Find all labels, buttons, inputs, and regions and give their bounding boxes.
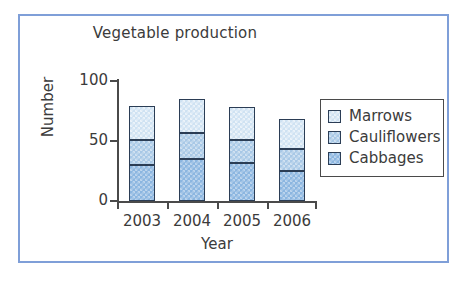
x-tick-mark-3 bbox=[267, 202, 269, 209]
bar-2004-segment-cabbages[interactable] bbox=[179, 159, 205, 201]
legend-item-cauliflowers[interactable]: Cauliflowers bbox=[328, 127, 436, 148]
legend-label-cabbages: Cabbages bbox=[349, 151, 423, 166]
bar-2006-segment-cauliflowers[interactable] bbox=[279, 149, 305, 171]
bar-2005-segment-cabbages[interactable] bbox=[229, 163, 255, 201]
chart-title: Vegetable production bbox=[20, 24, 330, 42]
x-tick-mark-0 bbox=[117, 202, 119, 209]
bar-2003-segment-cabbages[interactable] bbox=[129, 165, 155, 201]
x-axis-title: Year bbox=[117, 235, 317, 253]
legend-swatch-marrows bbox=[328, 110, 341, 123]
y-tick-label-0: 0 bbox=[60, 193, 108, 208]
x-tick-label-2003: 2003 bbox=[117, 212, 167, 230]
chart-frame: Vegetable production 100 50 0 Number 200… bbox=[18, 14, 449, 263]
chart-legend[interactable]: Marrows Cauliflowers Cabbages bbox=[320, 99, 444, 177]
y-tick-label-50: 50 bbox=[60, 133, 108, 148]
bar-2005-segment-marrows[interactable] bbox=[229, 107, 255, 139]
x-tick-mark-2 bbox=[217, 202, 219, 209]
legend-label-cauliflowers: Cauliflowers bbox=[349, 130, 441, 145]
y-tick-label-100: 100 bbox=[60, 73, 108, 88]
legend-item-cabbages[interactable]: Cabbages bbox=[328, 148, 436, 169]
y-tick-mark-50 bbox=[110, 140, 118, 142]
legend-swatch-cauliflowers bbox=[328, 131, 341, 144]
bar-2005-segment-cauliflowers[interactable] bbox=[229, 140, 255, 163]
bar-2004-segment-marrows[interactable] bbox=[179, 99, 205, 133]
chart-plot-container: Vegetable production 100 50 0 Number 200… bbox=[20, 16, 451, 265]
x-tick-mark-1 bbox=[167, 202, 169, 209]
x-tick-label-2006: 2006 bbox=[267, 212, 317, 230]
y-tick-mark-100 bbox=[110, 80, 118, 82]
bar-2006-segment-cabbages[interactable] bbox=[279, 171, 305, 201]
x-tick-mark-4 bbox=[315, 202, 317, 209]
legend-swatch-cabbages bbox=[328, 152, 341, 165]
bar-2003-segment-cauliflowers[interactable] bbox=[129, 140, 155, 165]
bar-2006-segment-marrows[interactable] bbox=[279, 119, 305, 149]
y-axis-title: Number bbox=[39, 57, 57, 157]
x-tick-label-2004: 2004 bbox=[167, 212, 217, 230]
legend-item-marrows[interactable]: Marrows bbox=[328, 106, 436, 127]
bar-2004-segment-cauliflowers[interactable] bbox=[179, 133, 205, 159]
bar-2003-segment-marrows[interactable] bbox=[129, 106, 155, 140]
x-tick-label-2005: 2005 bbox=[217, 212, 267, 230]
legend-label-marrows: Marrows bbox=[349, 109, 412, 124]
